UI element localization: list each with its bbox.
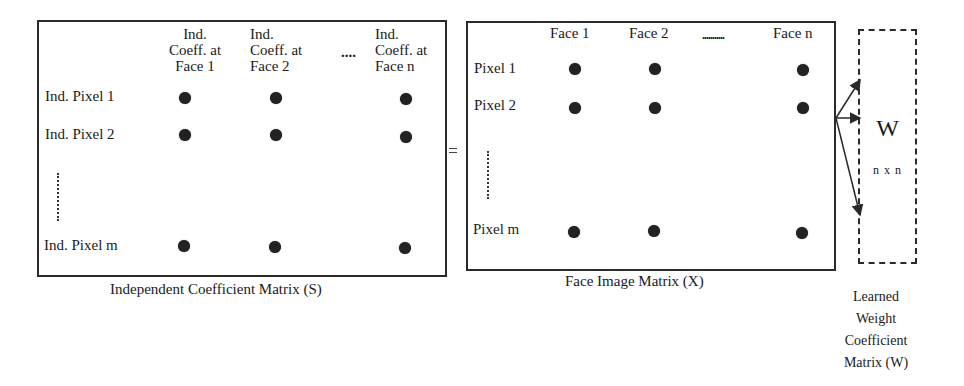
s-row-label-2: Ind. Pixel 2 [45,126,115,142]
arrow-up-icon [836,80,860,118]
s-element-m-n [399,242,411,254]
x-column-header-1: Face 1 [550,25,590,41]
equals-sign [449,148,457,153]
x-row-label-2: Pixel 2 [474,97,516,113]
x-element-m-1 [568,226,580,238]
s-row-ellipsis [57,173,59,221]
s-element-2-2 [270,129,282,141]
x-element-1-n [797,64,809,76]
arrow-down-icon [836,118,860,215]
weight-matrix-box [858,29,917,264]
x-element-1-1 [569,63,581,75]
x-row-ellipsis [487,151,489,199]
s-column-header-2: Ind. Coeff. at Face 2 [250,26,302,74]
s-column-header-n: Ind. Coeff. at Face n [375,26,427,74]
x-column-ellipsis: ........... [702,27,724,43]
s-element-2-1 [179,129,191,141]
x-column-header-n: Face n [773,25,813,41]
s-column-ellipsis: .... [341,44,356,60]
x-element-m-2 [648,225,660,237]
s-element-1-1 [179,92,191,104]
x-element-1-2 [649,63,661,75]
s-element-1-n [400,93,412,105]
weight-matrix-caption: Learned Weight Coefficient Matrix (W) [828,286,924,374]
x-element-2-1 [569,102,581,114]
x-row-label-m: Pixel m [473,221,519,237]
s-element-1-2 [270,92,282,104]
s-row-label-m: Ind. Pixel m [44,237,118,253]
weight-matrix-symbol: W [858,115,917,142]
x-matrix-caption: Face Image Matrix (X) [565,273,704,290]
s-column-header-1: Ind. Coeff. at Face 1 [160,26,230,74]
x-column-header-2: Face 2 [629,25,669,41]
x-row-label-1: Pixel 1 [474,60,516,76]
s-element-m-2 [269,241,281,253]
s-element-m-1 [178,240,190,252]
s-element-2-n [400,131,412,143]
weight-matrix-dimension: n x n [858,163,917,178]
x-element-2-n [797,102,809,114]
x-element-m-n [796,227,808,239]
s-matrix-caption: Independent Coefficient Matrix (S) [110,281,322,298]
x-element-2-2 [649,102,661,114]
s-row-label-1: Ind. Pixel 1 [45,88,115,104]
